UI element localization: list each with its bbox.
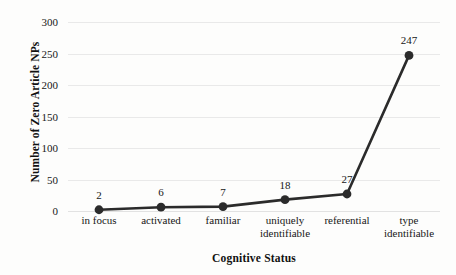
x-tick-label-line: activated (141, 214, 181, 227)
x-tick-label-line: identifiable (260, 227, 310, 240)
plot-area: 2671827247 (68, 22, 440, 211)
x-tick-label-line: identifiable (384, 227, 434, 240)
data-point-marker (219, 202, 228, 211)
line-series (68, 22, 440, 211)
x-tick-label: typeidentifiable (384, 214, 434, 240)
y-tick-label: 200 (42, 79, 59, 91)
x-tick-label-line: in focus (81, 214, 116, 227)
data-point-label: 27 (342, 173, 353, 185)
data-point-label: 18 (280, 179, 291, 191)
y-tick-label: 50 (47, 174, 58, 186)
x-axis-title: Cognitive Status (68, 252, 440, 264)
data-point-label: 247 (401, 34, 418, 46)
x-tick-label: referential (324, 214, 369, 227)
data-point-marker (95, 205, 104, 214)
x-tick-label: familiar (206, 214, 241, 227)
x-tick-label-line: familiar (206, 214, 241, 227)
x-tick-label-line: referential (324, 214, 369, 227)
y-tick-label: 0 (53, 205, 59, 217)
series-line (99, 55, 409, 209)
x-tick-label: activated (141, 214, 181, 227)
x-axis-tick-labels: in focusactivatedfamiliaruniquelyidentif… (68, 214, 440, 248)
y-tick-label: 300 (42, 16, 59, 28)
y-tick-label: 250 (42, 48, 59, 60)
data-point-label: 2 (96, 189, 102, 201)
data-point-marker (343, 190, 352, 199)
y-tick-label: 150 (42, 111, 59, 123)
chart-figure: Number of Zero Article NPs 0501001502002… (0, 0, 456, 275)
data-point-marker (281, 195, 290, 204)
x-tick-label: uniquelyidentifiable (260, 214, 310, 240)
x-tick-label-line: uniquely (260, 214, 310, 227)
x-tick-label: in focus (81, 214, 116, 227)
y-axis-tick-labels: 050100150200250300 (0, 22, 62, 211)
x-tick-label-line: type (384, 214, 434, 227)
data-point-label: 7 (220, 186, 226, 198)
series-markers (95, 51, 414, 214)
data-point-marker (405, 51, 414, 60)
data-point-label: 6 (158, 186, 164, 198)
y-tick-label: 100 (42, 142, 59, 154)
data-point-marker (157, 203, 166, 212)
gridline (68, 211, 440, 212)
